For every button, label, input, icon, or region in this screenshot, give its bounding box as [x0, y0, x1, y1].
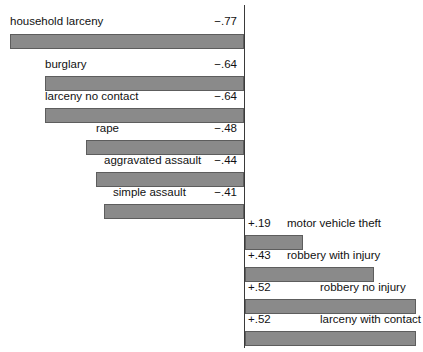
bar-value-label: +.43: [248, 248, 271, 262]
bar-value-label: −.44: [214, 153, 237, 167]
bar-value-wrap: +.52robbery no injury: [244, 280, 423, 294]
zero-axis-line: [244, 5, 245, 348]
bar-value-wrap: +.19motor vehicle theft: [244, 216, 423, 230]
bar-category-label: robbery with injury: [287, 248, 380, 262]
bar-value-wrap: −.44: [0, 153, 244, 167]
bar-value-label: +.19: [248, 216, 271, 230]
bar-category-label: larceny with contact: [320, 312, 421, 326]
bar-value-label: −.64: [214, 57, 237, 71]
bar-value-label: +.52: [248, 312, 271, 326]
bar-negative: [10, 34, 244, 49]
bar-negative: [104, 204, 244, 219]
bar-value-label: +.52: [248, 280, 271, 294]
tornado-bar-chart: household larceny−.77burglary−.64larceny…: [0, 0, 423, 352]
bar-value-wrap: −.64: [0, 57, 244, 71]
bar-value-wrap: −.41: [0, 185, 244, 199]
bar-category-label: robbery no injury: [320, 280, 406, 294]
bar-positive: [245, 331, 416, 346]
bar-value-wrap: +.52larceny with contact: [244, 312, 423, 326]
bar-value-wrap: +.43robbery with injury: [244, 248, 423, 262]
bar-category-label: motor vehicle theft: [287, 216, 381, 230]
bar-value-wrap: −.64: [0, 89, 244, 103]
bar-value-label: −.48: [214, 121, 237, 135]
bar-value-wrap: −.48: [0, 121, 244, 135]
bar-value-label: −.64: [214, 89, 237, 103]
bar-value-wrap: −.77: [0, 14, 244, 28]
chart-plot-area: household larceny−.77burglary−.64larceny…: [0, 0, 423, 352]
bar-value-label: −.41: [214, 185, 237, 199]
bar-value-label: −.77: [214, 14, 237, 28]
